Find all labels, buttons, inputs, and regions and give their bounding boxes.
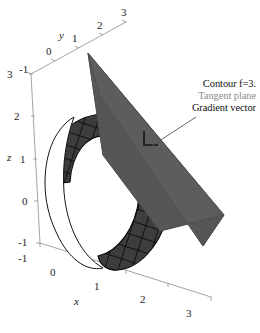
legend-entry-contour: Contour f=3. [158, 78, 256, 90]
z-tick-label-3: 3 [7, 69, 13, 80]
y-tick-label--1: -1 [19, 64, 28, 75]
y-tick-label-2: 2 [97, 20, 103, 31]
y-tick-label-0: 0 [46, 46, 52, 57]
legend: Contour f=3. Tangent plane Gradient vect… [158, 78, 256, 113]
x-tick-label-1: 1 [94, 281, 100, 292]
z-axis-line [31, 74, 40, 243]
z-tick-label--1: -1 [18, 237, 27, 248]
y-axis-name: y [59, 30, 64, 41]
z-tick-label-1: 1 [20, 154, 26, 165]
legend-entry-gradient-vector: Gradient vector [158, 102, 256, 114]
x-axis-name: x [74, 296, 79, 307]
y-tick-label-1: 1 [72, 33, 78, 44]
x-tick-label-3: 3 [186, 308, 192, 319]
z-tick-label-2: 2 [14, 111, 20, 122]
contour-plot-figure: -1 0 1 2 3 y 3 2 1 0 -1 z -1 0 1 2 3 x C… [0, 0, 260, 333]
x-tick-label-0: 0 [50, 267, 56, 278]
x-tick-label--1: -1 [18, 253, 27, 264]
y-tick-0 [51, 59, 55, 61]
y-tick-3 [122, 20, 126, 22]
x-tick-label-2: 2 [140, 294, 146, 305]
legend-leader-line [150, 117, 196, 147]
z-tick-label-0: 0 [22, 196, 28, 207]
plot-canvas [0, 0, 260, 333]
y-tick-2 [99, 33, 103, 35]
y-tick-1 [75, 46, 79, 48]
legend-entry-tangent-plane: Tangent plane [158, 90, 256, 102]
z-axis-name: z [7, 152, 11, 163]
y-tick-label-3: 3 [121, 7, 127, 18]
